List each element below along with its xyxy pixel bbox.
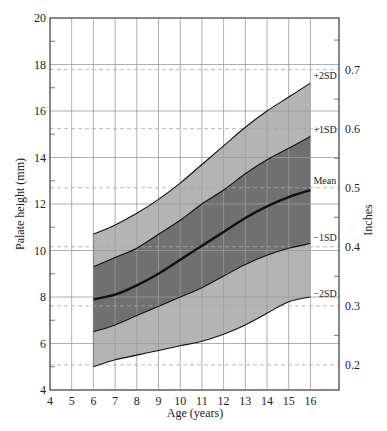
y2-tick-label: 0.3 <box>345 299 360 313</box>
palate-height-chart: 468101214161820456789101112131415160.20.… <box>0 0 387 431</box>
x-tick-label: 15 <box>283 394 295 408</box>
y2-tick-label: 0.5 <box>345 181 360 195</box>
band-label-minus2sd: −2SD <box>313 288 336 299</box>
y-tick-label: 16 <box>34 104 46 118</box>
x-tick-label: 14 <box>261 394 273 408</box>
x-tick-label: 6 <box>90 394 96 408</box>
y2-tick-label: 0.6 <box>345 122 360 136</box>
chart-canvas: 468101214161820456789101112131415160.20.… <box>0 0 387 431</box>
x-tick-label: 16 <box>304 394 316 408</box>
y-tick-label: 20 <box>34 11 46 25</box>
y-tick-label: 12 <box>34 197 46 211</box>
y2-tick-label: 0.7 <box>345 63 360 77</box>
y-tick-label: 14 <box>34 151 46 165</box>
band-label-plus1sd: +1SD <box>313 124 336 135</box>
y-tick-label: 4 <box>40 383 46 397</box>
y-axis-title: Palate height (mm) <box>13 158 27 250</box>
band-label-minus1sd: −1SD <box>313 232 336 243</box>
band-label-plus2sd: +2SD <box>313 70 336 81</box>
x-axis-title: Age (years) <box>167 406 223 420</box>
x-tick-label: 7 <box>112 394 118 408</box>
band-label-mean: Mean <box>313 175 336 186</box>
band-labels: +2SD+1SDMean−1SD−2SD <box>313 70 336 299</box>
y-tick-label: 8 <box>40 290 46 304</box>
x-tick-label: 9 <box>156 394 162 408</box>
x-tick-label: 5 <box>69 394 75 408</box>
y-tick-label: 6 <box>40 337 46 351</box>
x-tick-label: 4 <box>47 394 53 408</box>
y2-axis-title: Inches <box>361 204 375 236</box>
x-tick-label: 13 <box>239 394 251 408</box>
x-tick-label: 8 <box>134 394 140 408</box>
y-tick-label: 18 <box>34 58 46 72</box>
y-tick-label: 10 <box>34 244 46 258</box>
y2-tick-label: 0.4 <box>345 240 360 254</box>
y2-tick-label: 0.2 <box>345 358 360 372</box>
